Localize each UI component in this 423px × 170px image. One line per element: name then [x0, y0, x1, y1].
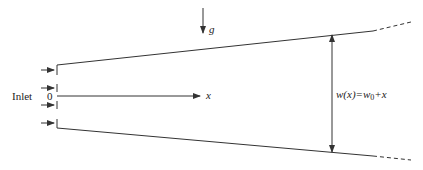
gravity-label: g	[209, 23, 215, 35]
width-formula-rhs: +x	[374, 88, 386, 100]
bottom-wall	[57, 128, 411, 160]
width-formula-label: w(x)=w0+x	[336, 88, 387, 104]
width-formula-lhs: w(x)=w	[336, 88, 370, 100]
top-wall	[57, 22, 411, 65]
bottom-wall-extension-dashed	[373, 156, 411, 160]
inlet-label: Inlet	[12, 90, 32, 102]
top-wall-extension-dashed	[373, 22, 411, 31]
x-axis-label: x	[206, 89, 211, 101]
origin-label: 0	[47, 90, 53, 102]
